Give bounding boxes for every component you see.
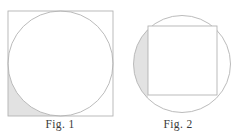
figure-2-inscribed-square-outline xyxy=(148,26,217,95)
figure-2-shaded-crescent-region xyxy=(134,16,149,113)
figure-1-panel: Fig. 1 xyxy=(0,0,120,134)
figure-1-graphic xyxy=(0,0,120,134)
shade-knockout-circle xyxy=(8,11,113,116)
shade-fill-left-band xyxy=(134,16,149,113)
figure-1-caption: Fig. 1 xyxy=(0,118,120,130)
figure-2-graphic xyxy=(118,0,238,134)
figure-2-caption: Fig. 2 xyxy=(118,118,238,130)
figure-1-shaded-corner-region xyxy=(8,11,113,116)
figure-board: Fig. 1 Fig. 2 xyxy=(0,0,238,134)
figure-2-panel: Fig. 2 xyxy=(118,0,238,134)
